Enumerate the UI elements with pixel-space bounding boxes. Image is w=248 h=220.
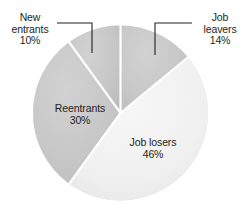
pie-label-job-leavers-line1: Job [194,12,246,24]
pie-label-new-entrants: New entrants 10% [2,12,58,47]
pie-label-reentrants: Reentrants 30% [38,102,122,126]
pie-label-job-losers: Job losers 46% [112,136,194,160]
pie-label-job-leavers: Job leavers 14% [194,12,246,47]
pie-label-job-losers-value: 46% [112,148,194,160]
pie-label-reentrants-value: 30% [38,114,122,126]
pie-label-job-losers-line1: Job losers [112,136,194,148]
pie-label-new-entrants-value: 10% [2,35,58,47]
pie-label-job-leavers-value: 14% [194,35,246,47]
pie-label-new-entrants-line1: New [2,12,58,24]
pie-label-reentrants-line1: Reentrants [38,102,122,114]
pie-chart-figure: New entrants 10% Job leavers 14% Reentra… [0,0,248,220]
